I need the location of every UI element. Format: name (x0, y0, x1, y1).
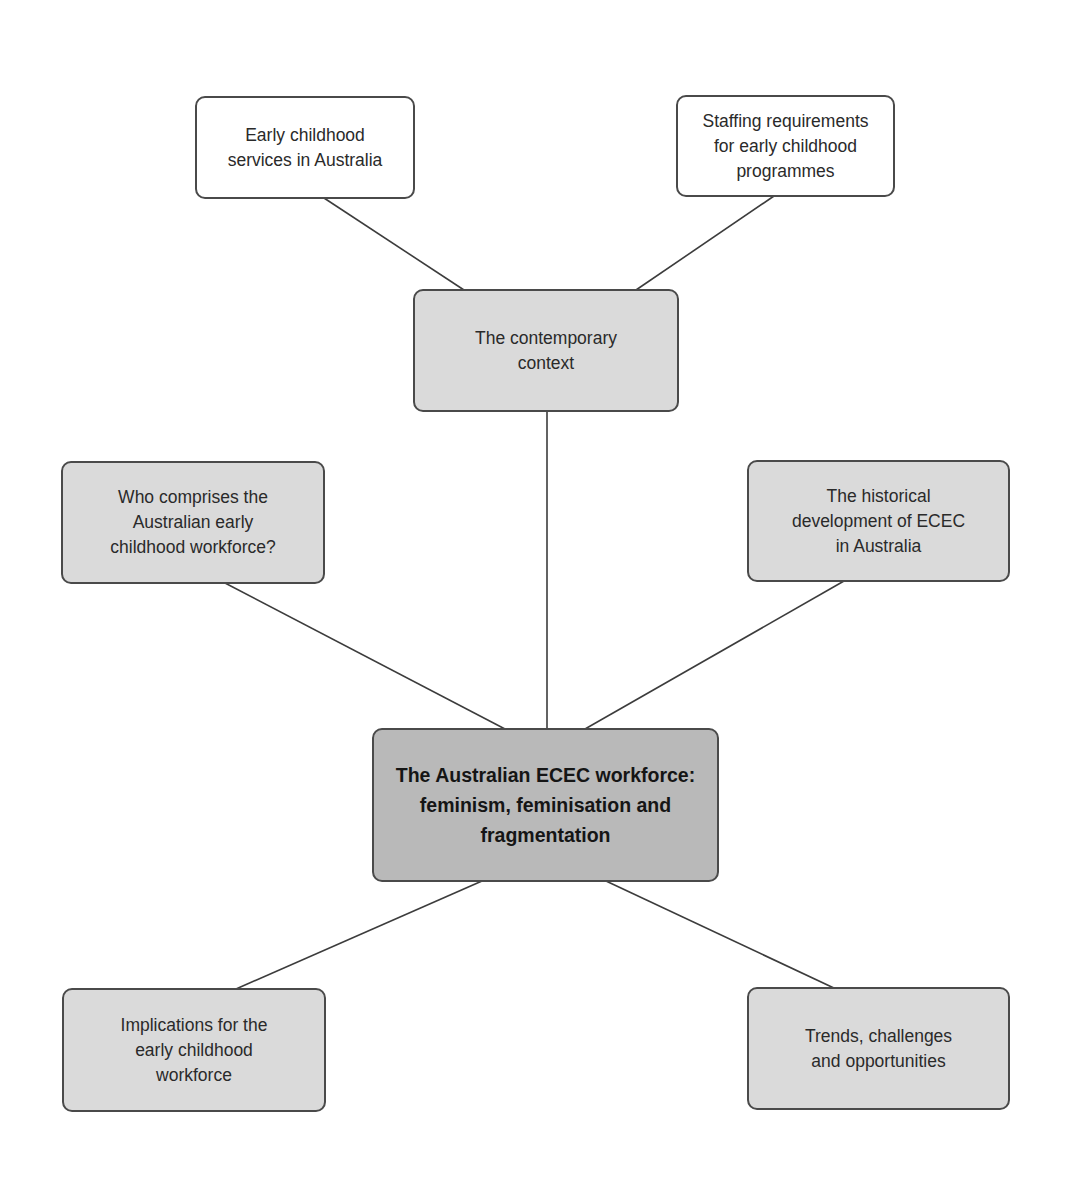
node-label: Who comprises the Australian early child… (110, 485, 275, 560)
edge-central-to-trends (606, 881, 836, 989)
node-label: Early childhood services in Australia (228, 123, 383, 173)
node-label: Staffing requirements for early childhoo… (702, 109, 868, 184)
node-early-childhood-services: Early childhood services in Australia (195, 96, 415, 199)
edge-services-to-context (324, 198, 464, 290)
edge-who-to-central (225, 583, 505, 729)
central-topic-label: The Australian ECEC workforce: feminism,… (396, 760, 695, 850)
node-contemporary-context: The contemporary context (413, 289, 679, 412)
node-central-topic: The Australian ECEC workforce: feminism,… (372, 728, 719, 882)
edge-historical-to-central (585, 581, 844, 729)
node-label: Trends, challenges and opportunities (805, 1024, 952, 1074)
edge-central-to-implications (236, 881, 482, 989)
node-historical-development: The historical development of ECEC in Au… (747, 460, 1010, 582)
node-staffing-requirements: Staffing requirements for early childhoo… (676, 95, 895, 197)
node-label: The contemporary context (475, 326, 617, 376)
node-label: Implications for the early childhood wor… (121, 1013, 268, 1088)
edge-staffing-to-context (636, 196, 774, 290)
node-implications: Implications for the early childhood wor… (62, 988, 326, 1112)
node-label: The historical development of ECEC in Au… (792, 484, 965, 559)
node-who-comprises-workforce: Who comprises the Australian early child… (61, 461, 325, 584)
node-trends-challenges: Trends, challenges and opportunities (747, 987, 1010, 1110)
